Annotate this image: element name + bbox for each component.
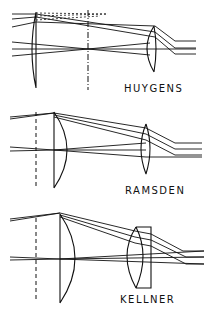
ramsden-label: RAMSDEN <box>125 185 185 196</box>
kellner-diagram: KELLNER <box>10 213 204 305</box>
eyepiece-diagrams: HUYGENS RAMSDEN <box>0 0 212 314</box>
huygens-field-lens <box>32 12 36 88</box>
huygens-label: HUYGENS <box>124 83 183 94</box>
kellner-label: KELLNER <box>120 294 175 305</box>
ramsden-diagram: RAMSDEN <box>10 112 202 196</box>
ramsden-eye-lens <box>141 124 150 174</box>
huygens-diagram: HUYGENS <box>12 10 196 94</box>
